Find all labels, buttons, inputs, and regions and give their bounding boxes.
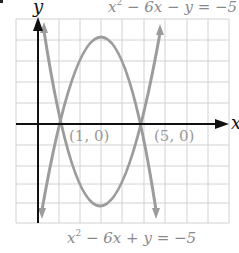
parabola-down-arrow-left <box>38 208 46 219</box>
point-label-1-0: (1, 0) <box>69 127 109 145</box>
bottom-equation-rest: − 6x + y = −5 <box>81 229 196 247</box>
x-axis-arrow <box>215 119 229 129</box>
bottom-equation-label: x2 − 6x + y = −5 <box>67 228 196 247</box>
point-label-5-0: (5, 0) <box>154 127 194 145</box>
top-equation-label: x2 − 6x − y = −5 <box>108 0 237 16</box>
parabola-up-arrow-right <box>156 24 164 35</box>
y-axis-label: y <box>33 0 43 17</box>
parabola-down-arrow-right <box>152 208 160 219</box>
top-equation-rest: − 6x − y = −5 <box>122 0 237 16</box>
graph-canvas <box>0 0 239 253</box>
graph-figure: y x x2 − 6x − y = −5 x2 − 6x + y = −5 (1… <box>0 0 239 253</box>
x-axis-label: x <box>231 112 239 133</box>
